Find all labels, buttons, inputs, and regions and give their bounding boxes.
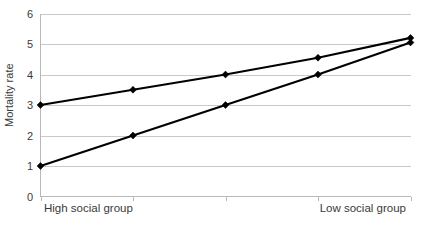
y-axis-tick-label: 4 [27, 69, 33, 81]
chart-container: 0123456 Mortality rate High social group… [0, 0, 423, 227]
y-axis-tick-label: 5 [27, 38, 33, 50]
x-axis-label-right: Low social group [320, 202, 406, 214]
y-axis-tick-label: 1 [27, 160, 33, 172]
y-axis-tick-label: 2 [27, 130, 33, 142]
chart-background [0, 0, 423, 227]
x-axis-label-left: High social group [44, 202, 133, 214]
mortality-rate-line-chart: 0123456 Mortality rate High social group… [0, 0, 423, 227]
y-axis-title: Mortality rate [3, 63, 15, 127]
y-axis-tick-label: 6 [27, 8, 33, 20]
y-axis-tick-label: 0 [27, 191, 33, 203]
y-axis-tick-label: 3 [27, 99, 33, 111]
